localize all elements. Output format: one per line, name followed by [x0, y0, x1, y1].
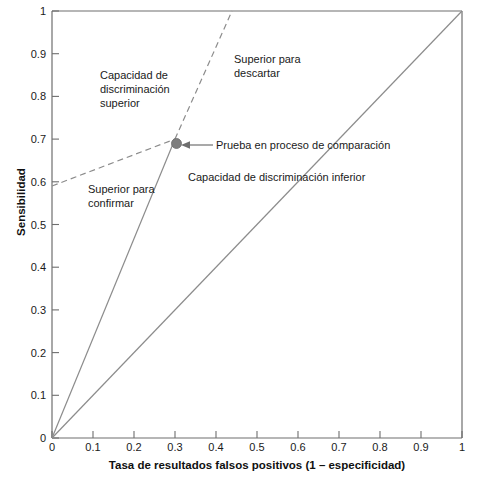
y-tick-label-7: 0.7: [18, 133, 46, 145]
x-tick-label-5: 0.5: [249, 441, 264, 453]
y-tick-label-9: 0.9: [18, 48, 46, 60]
annotation-superior-discrimination: Capacidad de discriminación superior: [100, 68, 170, 110]
operating-point-marker: [172, 139, 182, 149]
x-tick-label-7: 0.7: [331, 441, 346, 453]
y-axis-ticks: [52, 11, 59, 438]
annotation-test-under-comparison: Prueba en proceso de comparación: [216, 138, 390, 152]
x-tick-label-6: 0.6: [290, 441, 305, 453]
annotation-superior-rule-in: Superior para confirmar: [88, 182, 155, 210]
y-tick-label-0: 0: [18, 432, 46, 444]
x-axis-ticks: [52, 431, 462, 438]
x-tick-label-1: 0.1: [85, 441, 100, 453]
x-tick-label-9: 0.9: [413, 441, 428, 453]
x-axis-title: Tasa de resultados falsos positivos (1 –…: [52, 459, 462, 471]
x-tick-label-8: 0.8: [372, 441, 387, 453]
annotation-inferior-discrimination: Capacidad de discriminación inferior: [188, 170, 365, 184]
x-tick-label-3: 0.3: [167, 441, 182, 453]
y-axis-title: Sensibilidad: [15, 157, 27, 247]
x-tick-label-4: 0.4: [208, 441, 223, 453]
annotation-superior-rule-out: Superior para descartar: [234, 52, 301, 80]
y-tick-label-2: 0.2: [18, 347, 46, 359]
roc-chart-figure: 0 0.1 0.2 0.3 0.4 0.5 0.6 0.7 0.8 0.9 1 …: [0, 0, 481, 482]
x-tick-label-2: 0.2: [126, 441, 141, 453]
annotation-arrow: [181, 141, 213, 149]
y-tick-label-8: 0.8: [18, 90, 46, 102]
dashed-line-lower-segment: [52, 139, 175, 186]
dashed-line-upper-segment: [175, 11, 232, 139]
x-tick-label-0: 0: [49, 441, 55, 453]
x-tick-label-10: 1: [459, 441, 465, 453]
y-tick-label-3: 0.3: [18, 304, 46, 316]
y-tick-label-1: 0.1: [18, 389, 46, 401]
y-tick-label-10: 1: [18, 5, 46, 17]
y-tick-label-4: 0.4: [18, 261, 46, 273]
